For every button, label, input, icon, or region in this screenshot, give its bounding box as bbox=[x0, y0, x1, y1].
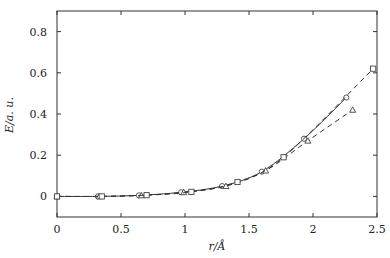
chart: 00.511.522.500.20.40.60.8 r/Å E/a. u. bbox=[0, 0, 390, 258]
series-triangle bbox=[54, 107, 356, 199]
y-tick-label: 0.2 bbox=[30, 149, 48, 162]
square-marker bbox=[144, 193, 149, 198]
square-marker bbox=[99, 194, 104, 199]
y-axis-label: E/a. u. bbox=[3, 97, 16, 134]
series-line bbox=[57, 98, 346, 197]
y-tick-label: 0 bbox=[40, 190, 47, 203]
x-tick-label: 2 bbox=[310, 223, 317, 236]
x-tick-label: 1.5 bbox=[240, 223, 258, 236]
x-tick-label: 1 bbox=[182, 223, 189, 236]
series-line bbox=[57, 110, 353, 197]
series-layer bbox=[54, 66, 376, 199]
triangle-marker bbox=[350, 107, 356, 112]
x-tick-label: 0 bbox=[54, 223, 61, 236]
square-marker bbox=[54, 194, 59, 199]
y-tick-label: 0.8 bbox=[30, 26, 48, 39]
x-axis-label: r/Å bbox=[209, 239, 226, 253]
square-marker bbox=[371, 66, 376, 71]
square-marker bbox=[235, 179, 240, 184]
y-tick-label: 0.4 bbox=[30, 108, 48, 121]
axis-ticks: 00.511.522.500.20.40.60.8 bbox=[30, 11, 386, 236]
x-tick-label: 2.5 bbox=[368, 223, 386, 236]
square-marker bbox=[189, 189, 194, 194]
series-line bbox=[57, 69, 373, 197]
y-tick-label: 0.6 bbox=[30, 67, 48, 80]
series-square bbox=[54, 66, 375, 199]
square-marker bbox=[281, 155, 286, 160]
series-circle bbox=[54, 95, 348, 199]
x-tick-label: 0.5 bbox=[112, 223, 130, 236]
